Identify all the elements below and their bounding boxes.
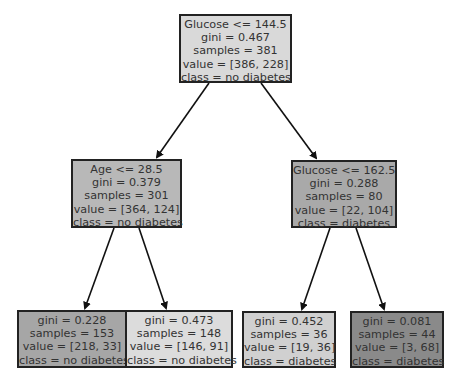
tree-leaf-1: gini = 0.228 samples = 153 value = [218,… [17, 310, 127, 368]
node-value: value = [218, 33] [19, 340, 125, 353]
tree-leaf-3: gini = 0.452 samples = 36 value = [19, 3… [242, 311, 336, 368]
tree-leaf-4: gini = 0.081 samples = 44 value = [3, 68… [350, 311, 444, 368]
node-gini: gini = 0.473 [127, 314, 231, 327]
node-split-condition: Age <= 28.5 [73, 163, 180, 176]
node-class: class = no diabetes [19, 354, 125, 367]
edge-arrow-glucose2-to-leaf3 [302, 228, 330, 309]
node-value: value = [364, 124] [73, 203, 180, 216]
edge-arrow-age-to-leaf1 [85, 228, 114, 308]
node-gini: gini = 0.452 [244, 315, 334, 328]
tree-leaf-2: gini = 0.473 samples = 148 value = [146,… [125, 310, 233, 368]
node-samples: samples = 153 [19, 327, 125, 340]
node-value: value = [146, 91] [127, 340, 231, 353]
node-samples: samples = 301 [73, 189, 180, 202]
tree-node-glucose-split: Glucose <= 162.5 gini = 0.288 samples = … [291, 160, 397, 228]
node-class: class = no diabetes [127, 354, 231, 367]
node-class: class = diabetes [352, 355, 442, 368]
node-gini: gini = 0.081 [352, 315, 442, 328]
node-samples: samples = 36 [244, 328, 334, 341]
node-gini: gini = 0.379 [73, 176, 180, 189]
node-class: class = no diabetes [181, 71, 290, 84]
node-class: class = diabetes [293, 217, 395, 230]
edge-arrow-glucose2-to-leaf4 [356, 228, 384, 309]
node-samples: samples = 148 [127, 327, 231, 340]
node-value: value = [3, 68] [352, 341, 442, 354]
node-samples: samples = 44 [352, 328, 442, 341]
node-samples: samples = 381 [181, 44, 290, 57]
node-value: value = [22, 104] [293, 204, 395, 217]
node-class: class = diabetes [244, 355, 334, 368]
node-value: value = [19, 36] [244, 341, 334, 354]
node-gini: gini = 0.288 [293, 177, 395, 190]
node-samples: samples = 80 [293, 190, 395, 203]
tree-node-age-split: Age <= 28.5 gini = 0.379 samples = 301 v… [71, 159, 182, 228]
edge-arrow-age-to-leaf2 [139, 228, 166, 308]
edge-arrow-root-to-glucose2 [261, 83, 316, 158]
tree-node-root: Glucose <= 144.5 gini = 0.467 samples = … [179, 14, 292, 83]
edge-arrow-root-to-age [157, 83, 209, 157]
node-gini: gini = 0.467 [181, 31, 290, 44]
node-class: class = no diabetes [73, 216, 180, 229]
node-gini: gini = 0.228 [19, 314, 125, 327]
node-split-condition: Glucose <= 162.5 [293, 164, 395, 177]
node-split-condition: Glucose <= 144.5 [181, 18, 290, 31]
node-value: value = [386, 228] [181, 58, 290, 71]
